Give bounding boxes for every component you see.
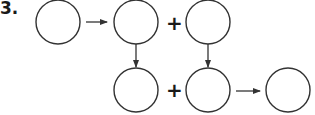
plus-sign: +: [166, 80, 183, 100]
blank-circle-6[interactable]: [266, 68, 310, 112]
blank-circle-4[interactable]: [186, 0, 230, 44]
blank-circle-5[interactable]: [186, 68, 230, 112]
blank-circle-2[interactable]: [114, 0, 158, 44]
reaction-diagram: [0, 0, 315, 115]
blank-circle-1[interactable]: [36, 0, 80, 44]
blank-circle-3[interactable]: [114, 68, 158, 112]
plus-sign: +: [166, 13, 183, 33]
